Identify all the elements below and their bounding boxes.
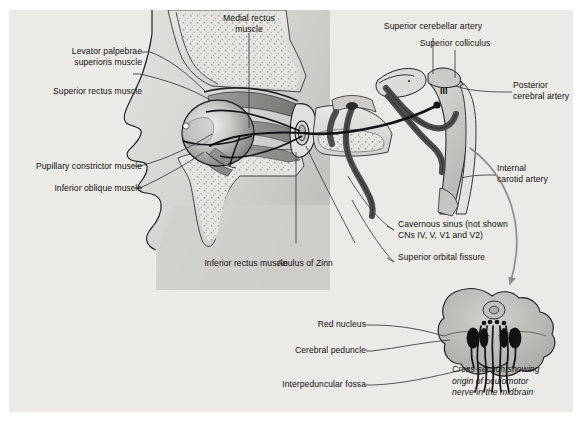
label-levator-palpebrae: Levator palpebrae superioris muscle <box>24 46 142 68</box>
label-superior-rectus: Superior rectus muscle <box>18 86 142 97</box>
label-cavernous-sinus: Cavernous sinus (not shown CNs IV, V, V1… <box>398 219 568 241</box>
label-medial-rectus: Medial rectus muscle <box>210 13 288 35</box>
label-anulus-of-zinn: Anulus of Zinn <box>260 258 350 269</box>
anatomy-figure: Levator palpebrae superioris muscle Supe… <box>0 0 583 428</box>
label-superior-colliculus: Superior colliculus <box>396 38 514 49</box>
label-internal-carotid-artery: Internal carotid artery <box>497 163 567 185</box>
label-inferior-oblique: Inferior oblique muscle <box>22 183 142 194</box>
label-cerebral-peduncle: Cerebral peduncle <box>262 345 366 356</box>
caption-cross-section: Cross-section showing origin of oculomot… <box>452 364 576 399</box>
label-interpeduncular-fossa: Interpeduncular fossa <box>245 379 366 390</box>
label-superior-orbital-fissure: Superior orbital fissure <box>398 252 548 263</box>
label-pupillary-constrictor: Pupillary constrictor muscle <box>10 161 142 172</box>
label-red-nucleus: Red nucleus <box>280 319 366 330</box>
label-superior-cerebellar-artery: Superior cerebellar artery <box>368 21 498 32</box>
label-posterior-cerebral-artery: Posterior cerebral artery <box>513 80 579 102</box>
label-nerve-iii: III <box>440 86 448 97</box>
